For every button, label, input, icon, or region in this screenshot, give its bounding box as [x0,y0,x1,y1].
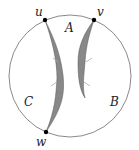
region-label-A: A [64,21,74,35]
vertex-v [92,18,96,22]
label-u: u [35,5,43,19]
region-label-C: C [24,95,33,109]
right-band [78,20,94,98]
vertex-u [43,18,47,22]
label-v: v [97,5,104,19]
region-label-B: B [109,95,119,109]
label-w: w [36,135,47,149]
vertex-w [44,130,48,134]
diagram-canvas: u v w A B C [0,0,139,150]
left-band [45,20,64,132]
